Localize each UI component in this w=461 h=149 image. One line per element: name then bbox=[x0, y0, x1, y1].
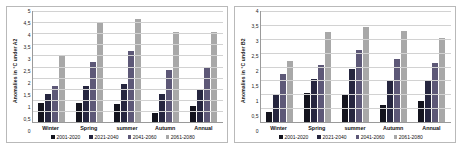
chart-panel-b2: Anomalies in °C under B2 00,511,522,533,… bbox=[234, 6, 456, 143]
bar bbox=[418, 101, 424, 122]
y-axis-label-a2: Anomalies in °C under A2 bbox=[10, 11, 19, 131]
bar bbox=[349, 69, 355, 122]
legend-item[interactable]: 2041-2060 bbox=[128, 134, 157, 140]
gridline bbox=[33, 22, 223, 23]
plot-a2 bbox=[32, 11, 223, 123]
y-tick-label: 3 bbox=[28, 56, 31, 62]
bar bbox=[356, 50, 362, 122]
legend-item[interactable]: 2061-2080 bbox=[394, 134, 423, 140]
bar bbox=[197, 90, 203, 122]
legend-label: 2061-2080 bbox=[399, 134, 423, 140]
legend-item[interactable]: 2021-2040 bbox=[89, 134, 118, 140]
gridline bbox=[261, 80, 451, 81]
legend-swatch-icon bbox=[279, 135, 282, 138]
y-tick-label: 2 bbox=[256, 68, 259, 74]
gridline bbox=[261, 25, 451, 26]
x-axis-labels-a2: WinterSpringsummerAutumnAnnual bbox=[32, 123, 223, 131]
y-tick-label: 4,5 bbox=[24, 20, 31, 26]
bar bbox=[97, 23, 103, 122]
bar bbox=[45, 94, 51, 122]
legend-item[interactable]: 2021-2040 bbox=[317, 134, 346, 140]
bar bbox=[135, 19, 141, 122]
plot-b2 bbox=[260, 11, 451, 123]
chart-area-b2: Anomalies in °C under B2 00,511,522,533,… bbox=[238, 11, 451, 131]
bar bbox=[387, 80, 393, 122]
y-tick-label: 0,5 bbox=[24, 116, 31, 122]
gridline bbox=[261, 53, 451, 54]
y-tick-label: 0,5 bbox=[252, 113, 259, 119]
gridline bbox=[33, 33, 223, 34]
legend-label: 2041-2060 bbox=[133, 134, 157, 140]
y-tick-label: 5 bbox=[28, 8, 31, 14]
plot-wrap-b2: WinterSpringsummerAutumnAnnual bbox=[260, 11, 451, 131]
bar bbox=[52, 86, 58, 122]
legend-item[interactable]: 2041-2060 bbox=[356, 134, 385, 140]
y-tick-label: 3 bbox=[256, 38, 259, 44]
y-tick-label: 3,5 bbox=[24, 44, 31, 50]
y-tick-label: 2 bbox=[28, 80, 31, 86]
gridline bbox=[33, 67, 223, 68]
legend-a2: 2001-20202021-20402041-20602061-2080 bbox=[10, 131, 223, 140]
bar bbox=[266, 112, 272, 122]
gridline bbox=[261, 67, 451, 68]
legend-item[interactable]: 2061-2080 bbox=[166, 134, 195, 140]
bar bbox=[114, 104, 120, 122]
y-tick-label: 1,5 bbox=[24, 92, 31, 98]
gridline bbox=[33, 100, 223, 101]
bar bbox=[90, 62, 96, 122]
bar bbox=[287, 61, 293, 122]
bar bbox=[159, 94, 165, 122]
y-tick-label: 0 bbox=[256, 128, 259, 134]
gridline bbox=[261, 39, 451, 40]
plot-wrap-a2: WinterSpringsummerAutumnAnnual bbox=[32, 11, 223, 131]
bar bbox=[432, 63, 438, 122]
legend-label: 2001-2020 bbox=[56, 134, 80, 140]
legend-swatch-icon bbox=[394, 135, 397, 138]
legend-item[interactable]: 2001-2020 bbox=[51, 134, 80, 140]
gridline bbox=[33, 78, 223, 79]
y-tick-label: 1 bbox=[256, 98, 259, 104]
gridline bbox=[261, 108, 451, 109]
y-tick-label: 1,5 bbox=[252, 83, 259, 89]
chart-panel-a2: Anomalies in °C under A2 00,511,522,533,… bbox=[6, 6, 228, 143]
bar bbox=[83, 86, 89, 122]
bar bbox=[76, 103, 82, 122]
bar bbox=[121, 84, 127, 122]
legend-swatch-icon bbox=[51, 135, 54, 138]
legend-label: 2021-2040 bbox=[95, 134, 119, 140]
y-tick-label: 3,5 bbox=[252, 23, 259, 29]
legend-swatch-icon bbox=[356, 135, 359, 138]
legend-label: 2021-2040 bbox=[323, 134, 347, 140]
y-tick-label: 4 bbox=[256, 8, 259, 14]
gridline bbox=[33, 44, 223, 45]
y-tick-label: 2,5 bbox=[252, 53, 259, 59]
bar bbox=[152, 113, 158, 122]
y-axis-label-b2: Anomalies in °C under B2 bbox=[238, 11, 247, 131]
gridline bbox=[33, 89, 223, 90]
legend-swatch-icon bbox=[317, 135, 320, 138]
y-tick-label: 2,5 bbox=[24, 68, 31, 74]
figure-two-panel-bar-charts: Anomalies in °C under A2 00,511,522,533,… bbox=[0, 0, 461, 149]
legend-swatch-icon bbox=[128, 135, 131, 138]
y-axis-ticks-a2: 00,511,522,533,544,55 bbox=[19, 11, 32, 131]
y-tick-label: 4 bbox=[28, 32, 31, 38]
gridline bbox=[33, 111, 223, 112]
bar bbox=[425, 81, 431, 122]
bar bbox=[204, 67, 210, 123]
bar bbox=[311, 79, 317, 122]
x-axis-labels-b2: WinterSpringsummerAutumnAnnual bbox=[260, 123, 451, 131]
gridline bbox=[261, 94, 451, 95]
legend-label: 2041-2060 bbox=[361, 134, 385, 140]
legend-swatch-icon bbox=[89, 135, 92, 138]
legend-label: 2061-2080 bbox=[171, 134, 195, 140]
legend-swatch-icon bbox=[166, 135, 169, 138]
y-tick-label: 1 bbox=[28, 104, 31, 110]
bar bbox=[394, 59, 400, 122]
gridline bbox=[33, 11, 223, 12]
y-tick-label: 0 bbox=[28, 128, 31, 134]
bar bbox=[280, 74, 286, 122]
y-axis-ticks-b2: 00,511,522,533,54 bbox=[247, 11, 260, 131]
bar bbox=[190, 106, 196, 122]
legend-item[interactable]: 2001-2020 bbox=[279, 134, 308, 140]
gridline bbox=[261, 11, 451, 12]
